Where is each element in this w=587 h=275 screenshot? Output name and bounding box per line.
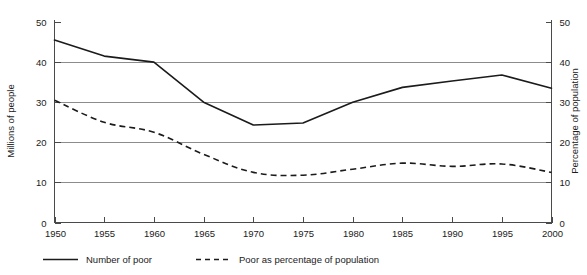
left-axis-tick-label: 0: [41, 218, 46, 229]
x-axis-tick-label: 1955: [94, 228, 115, 239]
left-axis-tick-label: 20: [36, 137, 47, 148]
x-axis-tick-label: 1960: [144, 228, 165, 239]
right-axis-tick-label: 40: [560, 57, 571, 68]
line-chart: 1950195519601965197019751980198519901995…: [0, 0, 587, 275]
chart-container: 1950195519601965197019751980198519901995…: [0, 0, 587, 275]
x-axis-tick-label: 1995: [492, 228, 513, 239]
series-line-poor-percentage: [55, 100, 552, 175]
left-axis-tick-label: 10: [36, 177, 47, 188]
left-axis-tick-label: 40: [36, 57, 47, 68]
x-axis-tick-label: 1975: [293, 228, 314, 239]
legend-label-number-of-poor: Number of poor: [86, 254, 152, 265]
right-axis-tick-label: 0: [560, 218, 565, 229]
x-axis-tick-label: 1990: [442, 228, 463, 239]
x-axis-tick-label: 2000: [542, 228, 563, 239]
left-axis-tick-labels: 01020304050: [36, 17, 47, 229]
x-axis-tick-labels: 1950195519601965197019751980198519901995…: [45, 228, 563, 239]
x-axis-tick-label: 1970: [243, 228, 264, 239]
right-axis-tick-label: 10: [560, 177, 571, 188]
left-axis-ticks: [55, 23, 61, 224]
right-axis-ticks: [546, 23, 552, 224]
x-axis-tick-label: 1985: [392, 228, 413, 239]
x-axis-tick-label: 1965: [194, 228, 215, 239]
legend: Number of poor Poor as percentage of pop…: [43, 254, 379, 265]
left-axis-tick-label: 30: [36, 97, 47, 108]
legend-label-poor-percentage: Poor as percentage of population: [239, 254, 379, 265]
left-axis-tick-label: 50: [36, 17, 47, 28]
x-axis-ticks: [56, 217, 553, 223]
series-line-number-of-poor: [55, 40, 552, 125]
y-axis-title-left: Millions of people: [5, 84, 16, 157]
x-axis-tick-label: 1950: [45, 228, 66, 239]
right-axis-tick-label: 50: [560, 17, 571, 28]
x-axis-tick-label: 1980: [343, 228, 364, 239]
y-axis-title-right: Percentage of population: [569, 68, 580, 174]
